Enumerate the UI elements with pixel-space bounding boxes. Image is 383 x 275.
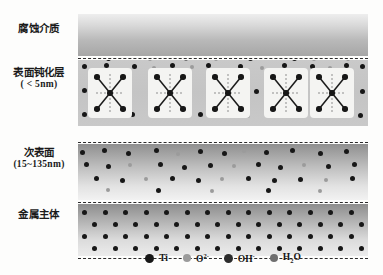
particle-ti	[350, 176, 355, 181]
particle-ti	[292, 60, 297, 61]
particle-ti	[358, 113, 363, 118]
layer-label-medium: 腐蚀介质	[0, 22, 78, 35]
particle-ti	[342, 74, 347, 79]
particle-ti	[80, 150, 85, 155]
particle-ti	[120, 106, 125, 111]
particle-ti	[123, 234, 128, 239]
oh-particle-icon	[224, 254, 233, 263]
particle-ti	[205, 210, 210, 215]
particle-ti	[208, 163, 213, 168]
particle-ti	[94, 176, 99, 181]
particle-ti	[132, 64, 137, 69]
particle-ti	[144, 210, 149, 215]
diffusion-cluster	[88, 68, 132, 118]
o2-particle-icon	[183, 254, 191, 262]
particle-ti	[290, 148, 295, 153]
particle-o2	[220, 177, 224, 181]
particle-ti	[102, 148, 107, 153]
particle-ti	[360, 89, 365, 94]
particle-o2	[318, 189, 322, 193]
legend-item-o2: O2-	[183, 252, 209, 264]
diffusion-cluster	[310, 68, 354, 118]
particle-ti	[82, 234, 87, 239]
particle-o2	[346, 60, 350, 61]
particle-ti	[318, 151, 323, 156]
particle-o2	[302, 163, 306, 167]
particle-ti	[226, 234, 231, 239]
particle-ti	[329, 90, 335, 96]
particle-ti	[120, 74, 125, 79]
layer-label-passivation-line1: 表面钝化层	[0, 66, 78, 79]
particle-ti	[248, 60, 253, 61]
layer-stack	[78, 14, 368, 246]
particle-o2	[148, 60, 152, 61]
particle-ti	[154, 106, 159, 111]
particle-ti	[267, 210, 272, 215]
particle-ti	[359, 222, 364, 227]
particle-ti	[342, 106, 347, 111]
particle-ti	[287, 210, 292, 215]
particle-ti	[278, 165, 283, 170]
layer-label-subsurface: 次表面 (15~135nm)	[0, 146, 78, 171]
legend-item-ti: Ti	[145, 253, 168, 263]
legend: Ti O2- OH- H2O	[78, 248, 368, 268]
h2o-particle-icon	[270, 254, 278, 262]
diffusion-cluster	[206, 68, 250, 118]
particle-o2	[128, 163, 132, 167]
particle-ti	[113, 222, 118, 227]
layer-label-medium-line1: 腐蚀介质	[0, 22, 78, 35]
particle-ti	[352, 162, 357, 167]
particle-ti	[106, 164, 111, 169]
particle-ti	[215, 222, 220, 227]
particle-ti	[205, 234, 210, 239]
particle-o2	[312, 60, 316, 61]
separator-subsurface-metal	[78, 202, 368, 203]
particle-ti	[349, 234, 354, 239]
particle-ti	[266, 188, 271, 193]
layer-subsurface	[78, 144, 368, 200]
particle-ti	[328, 210, 333, 215]
particle-ti	[198, 112, 203, 117]
particle-ti	[264, 150, 269, 155]
particle-ti	[316, 74, 321, 79]
particle-ti	[349, 210, 354, 215]
particle-ti	[246, 210, 251, 215]
particle-ti	[154, 222, 159, 227]
particle-ti	[287, 234, 292, 239]
particle-ti	[256, 162, 261, 167]
particle-ti	[316, 106, 321, 111]
particle-ti	[226, 210, 231, 215]
particle-o2	[324, 178, 328, 182]
particle-o2	[144, 177, 148, 181]
separator-passivation-subsurface	[78, 142, 368, 143]
particle-ti	[123, 210, 128, 215]
particle-ti	[167, 90, 173, 96]
layer-label-metal: 金属主体	[0, 208, 78, 221]
layer-passivation-film	[78, 60, 368, 126]
particle-ti	[180, 74, 185, 79]
particle-ti	[164, 210, 169, 215]
particle-ti	[277, 222, 282, 227]
layer-label-subsurface-line1: 次表面	[0, 146, 78, 159]
particle-ti	[156, 188, 161, 193]
particle-ti	[185, 234, 190, 239]
particle-ti	[296, 106, 301, 111]
particle-ti	[283, 90, 289, 96]
particle-ti	[126, 151, 131, 156]
particle-ti	[107, 90, 113, 96]
particle-ti	[222, 151, 227, 156]
diffusion-cluster	[148, 68, 192, 118]
particle-ti	[236, 222, 241, 227]
particle-ti	[106, 60, 111, 61]
particle-ti	[120, 178, 125, 183]
particle-ti	[94, 74, 99, 79]
particle-o2	[214, 60, 218, 61]
diagram-root: 腐蚀介质 表面钝化层 ( < 5nm) 次表面 (15~135nm) 金属主体 …	[0, 0, 383, 275]
particle-ti	[154, 74, 159, 79]
particle-ti	[154, 148, 159, 153]
diffusion-cluster	[264, 68, 308, 118]
particle-ti	[212, 74, 217, 79]
layer-corrosive-medium	[78, 14, 368, 56]
particle-ti	[338, 222, 343, 227]
particle-ti	[298, 177, 303, 182]
